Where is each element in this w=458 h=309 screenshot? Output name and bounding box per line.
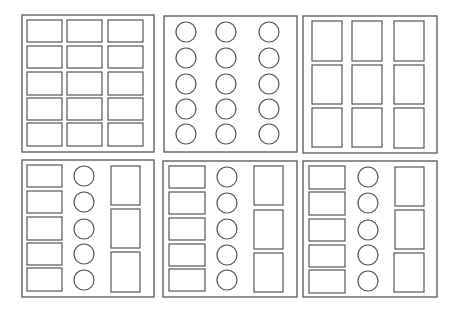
circle-shape bbox=[358, 220, 378, 240]
rectangle-shape bbox=[352, 65, 382, 104]
rectangle-shape bbox=[309, 270, 345, 293]
rectangle-shape bbox=[108, 46, 143, 68]
rectangle-shape bbox=[27, 191, 62, 213]
circle-shape bbox=[358, 271, 378, 291]
rectangle-shape bbox=[394, 108, 424, 148]
rectangle-shape bbox=[108, 98, 143, 120]
panel-4 bbox=[22, 160, 154, 297]
circle-shape bbox=[74, 166, 94, 186]
rectangle-shape bbox=[67, 20, 102, 42]
rectangle-shape bbox=[254, 210, 283, 249]
circle-shape bbox=[176, 74, 196, 94]
circle-shape bbox=[74, 244, 94, 264]
rectangle-shape bbox=[27, 217, 62, 240]
rectangle-shape bbox=[312, 108, 342, 147]
rectangle-shape bbox=[27, 46, 62, 68]
circle-shape bbox=[176, 99, 196, 119]
circle-shape bbox=[74, 219, 94, 239]
rectangle-shape bbox=[395, 167, 424, 206]
rectangle-shape bbox=[309, 166, 345, 189]
circle-shape bbox=[217, 245, 237, 265]
rectangle-shape bbox=[254, 166, 283, 205]
panel-3 bbox=[303, 16, 437, 153]
rectangle-shape bbox=[394, 253, 424, 292]
circle-shape bbox=[259, 48, 279, 68]
circle-shape bbox=[259, 22, 279, 42]
rectangle-shape bbox=[27, 268, 62, 291]
rectangle-shape bbox=[27, 243, 62, 265]
rectangle-shape bbox=[312, 65, 342, 104]
circle-shape bbox=[217, 270, 237, 290]
rectangle-shape bbox=[169, 244, 205, 266]
rectangle-shape bbox=[27, 98, 62, 120]
circle-shape bbox=[216, 48, 236, 68]
rectangle-shape bbox=[67, 72, 102, 95]
rectangle-shape bbox=[27, 72, 62, 95]
circle-shape bbox=[259, 74, 279, 94]
circle-shape bbox=[358, 245, 378, 265]
rectangle-shape bbox=[27, 165, 62, 187]
circle-shape bbox=[176, 22, 196, 42]
circle-shape bbox=[176, 124, 196, 144]
panel-2 bbox=[164, 16, 297, 152]
circle-shape bbox=[259, 99, 279, 119]
rectangle-shape bbox=[309, 219, 345, 241]
circle-shape bbox=[176, 48, 196, 68]
circle-shape bbox=[259, 124, 279, 144]
circle-shape bbox=[216, 99, 236, 119]
rectangle-shape bbox=[352, 108, 382, 147]
rectangle-shape bbox=[309, 192, 345, 215]
rectangle-shape bbox=[312, 21, 342, 61]
panel-5 bbox=[163, 161, 297, 297]
circle-shape bbox=[216, 124, 236, 144]
rectangle-shape bbox=[169, 218, 205, 240]
circle-shape bbox=[74, 270, 94, 290]
rectangle-shape bbox=[27, 20, 62, 42]
rectangle-shape bbox=[394, 21, 424, 61]
rectangle-shape bbox=[111, 209, 140, 248]
panel-1 bbox=[22, 15, 154, 152]
panel-6 bbox=[303, 161, 437, 297]
rectangle-shape bbox=[108, 72, 143, 95]
rectangle-shape bbox=[108, 20, 143, 42]
rectangle-shape bbox=[395, 210, 424, 249]
circle-shape bbox=[216, 74, 236, 94]
circle-shape bbox=[358, 167, 378, 187]
rectangle-shape bbox=[169, 166, 205, 188]
circle-shape bbox=[217, 167, 237, 187]
rectangle-shape bbox=[352, 21, 382, 61]
rectangle-shape bbox=[67, 123, 102, 146]
rectangle-shape bbox=[67, 46, 102, 68]
circle-shape bbox=[217, 193, 237, 213]
rectangle-shape bbox=[111, 166, 140, 205]
circle-shape bbox=[216, 22, 236, 42]
rectangle-shape bbox=[309, 245, 345, 267]
rectangle-shape bbox=[254, 253, 283, 292]
rectangle-shape bbox=[169, 269, 205, 291]
rectangle-shape bbox=[67, 98, 102, 120]
rectangle-shape bbox=[108, 123, 143, 146]
diagram-canvas bbox=[0, 0, 458, 309]
circle-shape bbox=[358, 193, 378, 213]
rectangle-shape bbox=[394, 65, 424, 104]
circle-shape bbox=[74, 192, 94, 212]
circle-shape bbox=[217, 219, 237, 239]
rectangle-shape bbox=[27, 123, 62, 146]
rectangle-shape bbox=[111, 252, 140, 292]
rectangle-shape bbox=[169, 192, 205, 214]
